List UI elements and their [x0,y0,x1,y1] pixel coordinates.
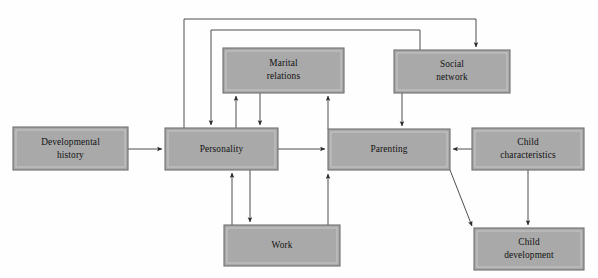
node-label-marital-relations-line1: Marital [269,58,298,68]
node-label-parenting: Parenting [371,144,408,154]
node-label-child-characteristics-line1: Child [517,137,539,147]
node-label-social-network-line2: network [436,72,468,82]
edge-parenting-to-child-development [450,170,472,226]
node-marital-relations[interactable]: Marital relations [223,48,344,93]
node-developmental-history[interactable]: Developmental history [13,127,128,170]
node-layer: Developmental history Personality Marita… [13,48,584,270]
node-label-child-characteristics-line2: characteristics [500,150,556,160]
node-label-social-network-line1: Social [440,59,464,69]
node-work[interactable]: Work [224,225,340,266]
node-social-network[interactable]: Social network [394,50,510,93]
node-label-marital-relations-line2: relations [267,71,301,81]
node-parenting[interactable]: Parenting [328,129,450,170]
node-label-personality: Personality [200,144,244,154]
node-label-child-development-line1: Child [518,237,540,247]
node-personality[interactable]: Personality [165,128,278,170]
node-label-developmental-history-line2: history [57,150,84,160]
node-child-development[interactable]: Child development [474,228,584,270]
node-label-work: Work [271,240,292,250]
diagram-svg: Developmental history Personality Marita… [0,0,598,278]
diagram-canvas: Developmental history Personality Marita… [0,0,598,278]
node-child-characteristics[interactable]: Child characteristics [472,128,584,170]
node-label-developmental-history-line1: Developmental [41,137,100,147]
node-label-child-development-line2: development [504,250,554,260]
